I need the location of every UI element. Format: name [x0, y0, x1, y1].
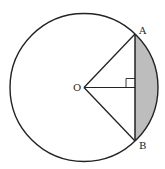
radius-ob — [84, 88, 135, 142]
circle-chord-diagram: O A B — [0, 0, 165, 169]
label-o: O — [73, 82, 81, 93]
right-angle-marker — [126, 79, 135, 88]
shaded-segment — [135, 34, 158, 141]
label-a: A — [138, 25, 147, 36]
label-b: B — [139, 140, 146, 151]
radius-oa — [84, 34, 135, 88]
